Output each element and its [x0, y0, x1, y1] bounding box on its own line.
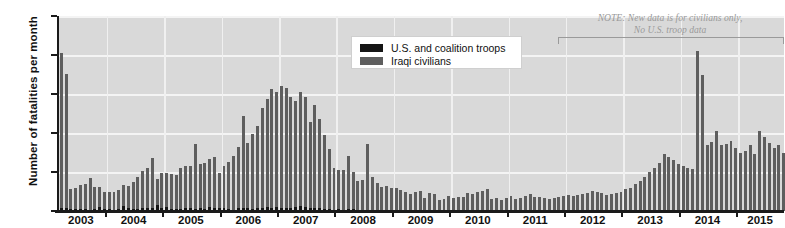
bar: [533, 197, 536, 211]
bar: [89, 178, 92, 211]
bar: [634, 184, 637, 211]
bar: [60, 53, 63, 211]
bar: [227, 162, 230, 211]
bar: [658, 163, 661, 211]
bar: [648, 172, 651, 211]
bar: [586, 193, 589, 211]
bar: [122, 185, 125, 211]
x-tick-label: 2013: [637, 214, 663, 226]
bar: [409, 194, 412, 211]
bar: [179, 168, 182, 211]
bar: [294, 101, 297, 211]
bar: [486, 189, 489, 211]
bar: [481, 191, 484, 211]
x-tick-label: 2011: [523, 214, 548, 226]
legend-label-civilians: Iraqi civilians: [391, 55, 451, 67]
x-tick-mark: [277, 211, 279, 217]
note-line-1: NOTE: New data is for civilians only,: [556, 12, 784, 24]
bar: [366, 144, 369, 211]
bar: [457, 197, 460, 211]
bar: [629, 188, 632, 211]
bar: [280, 86, 283, 211]
bar: [615, 193, 618, 211]
bar: [313, 105, 316, 211]
bar: [677, 164, 680, 211]
bar: [572, 196, 575, 211]
bar: [667, 157, 670, 211]
note-line-2: No U.S. troop data: [556, 24, 784, 36]
x-tick-label: 2004: [121, 214, 147, 226]
bar: [510, 196, 513, 211]
bar: [773, 148, 776, 211]
bar: [380, 187, 383, 211]
bar: [299, 92, 302, 211]
bar: [538, 197, 541, 211]
bar: [84, 184, 87, 211]
x-tick-mark: [507, 211, 509, 217]
bar: [428, 193, 431, 211]
bar: [419, 191, 422, 211]
bar: [285, 88, 288, 211]
bar: [466, 193, 469, 211]
bar: [328, 149, 331, 211]
bar: [581, 194, 584, 211]
bar: [725, 144, 728, 211]
bar: [672, 160, 675, 211]
bar: [371, 177, 374, 211]
x-tick-mark: [449, 211, 451, 217]
legend-label-troops: U.S. and coalition troops: [391, 42, 505, 54]
bar: [734, 148, 737, 211]
bar: [141, 171, 144, 211]
x-tick-mark: [105, 211, 107, 217]
bar: [768, 143, 771, 211]
bar: [404, 192, 407, 211]
bar: [653, 168, 656, 211]
bar: [744, 151, 747, 211]
bar: [309, 122, 312, 211]
bar: [663, 154, 666, 211]
bar: [136, 177, 139, 211]
bar: [730, 141, 733, 211]
bar: [275, 92, 278, 211]
bar: [251, 134, 254, 211]
bar: [213, 157, 216, 211]
x-tick-label: 2005: [178, 214, 204, 226]
bar: [347, 156, 350, 211]
bar: [600, 193, 603, 211]
bar: [596, 192, 599, 211]
bar: [189, 166, 192, 211]
bar: [304, 97, 307, 211]
bar: [763, 137, 766, 211]
bar: [399, 190, 402, 211]
bar: [610, 194, 613, 211]
bar: [69, 189, 72, 211]
x-tick-label: 2012: [580, 214, 606, 226]
x-tick-mark: [220, 211, 222, 217]
bar: [98, 187, 101, 211]
bar: [562, 196, 565, 211]
x-tick-label: 2003: [68, 214, 94, 226]
bar: [361, 180, 364, 211]
bar: [720, 145, 723, 211]
legend-swatch-troops: [360, 44, 383, 52]
bar: [605, 195, 608, 211]
bar: [710, 142, 713, 211]
x-tick-mark: [392, 211, 394, 217]
bar: [199, 164, 202, 211]
bar: [643, 177, 646, 211]
x-tick-mark: [679, 211, 681, 217]
bar: [146, 168, 149, 211]
bar: [376, 183, 379, 211]
gridline-v: [623, 16, 625, 211]
legend: U.S. and coalition troops Iraqi civilian…: [351, 36, 522, 69]
bar: [682, 166, 685, 211]
bar: [170, 174, 173, 211]
bar: [79, 185, 82, 211]
x-tick-label: 2008: [350, 214, 376, 226]
bar: [246, 143, 249, 211]
x-tick-mark: [621, 211, 623, 217]
gridline-v: [566, 16, 568, 211]
bar: [65, 74, 68, 211]
bar: [194, 144, 197, 211]
